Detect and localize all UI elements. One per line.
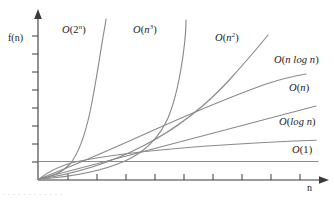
curve-label-exponential: O(2n) [62,25,86,36]
curve-label-close: ) [235,32,239,43]
curve-nlogn [39,74,306,179]
curves-group [39,19,318,179]
curve-label-base: n log n [285,54,315,65]
y-axis-label: f(n) [8,33,23,43]
curve-label-o: O [289,82,297,93]
curve-quadratic [39,35,268,179]
curve-label-close: ) [306,82,310,93]
complexity-plot [0,0,334,203]
curve-label-quadratic: O(n2) [215,33,239,44]
curve-label-o: O [215,32,223,43]
curve-label-base: log n [290,116,312,127]
x-axis-arrowhead [319,176,329,184]
curve-label-logarithmic: O(log n) [279,117,316,128]
curve-label-o: O [133,24,141,35]
curve-label-linear: O(n) [289,83,309,94]
y-axis-ticks [32,36,38,162]
curve-linear [39,106,316,179]
curve-label-close: ) [315,54,319,65]
curve-label-o: O [279,116,287,127]
caption-strip: · · · · · · · · · · · · [0,193,334,203]
x-axis-ticks [68,174,300,180]
x-axis-label: n [307,183,312,193]
curve-label-close: ) [312,116,316,127]
curve-label-nlogn: O(n log n) [274,55,319,66]
curve-label-constant: O(1) [292,145,312,156]
curve-label-o: O [274,54,282,65]
curve-label-o: O [62,24,70,35]
curve-label-o: O [292,144,300,155]
curve-label-close: ) [153,24,157,35]
y-axis-arrowhead [34,9,42,19]
caption-text: · · · · · · · · · · · · [2,193,63,199]
bigo-complexity-figure: f(n) n O(2n) O(n3) O(n2) O(n log n) O(n)… [0,0,334,203]
curve-label-cubic: O(n3) [133,25,157,36]
curve-label-close: ) [309,144,313,155]
curve-label-close: ) [82,24,86,35]
